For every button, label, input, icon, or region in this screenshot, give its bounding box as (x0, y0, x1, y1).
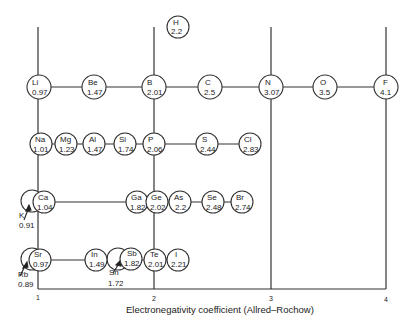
element-labels: H 2.2 Li 0.97 Be 1.47 B 2.01 C 2.5 N 3.0… (18, 18, 392, 289)
element-s-symbol: S (202, 135, 207, 144)
element-in-value: 1.49 (89, 260, 105, 269)
element-be-symbol: Be (88, 78, 98, 87)
element-sb-value: 1.82 (124, 259, 140, 268)
element-ca-value: 1.04 (37, 203, 53, 212)
element-c-value: 2.5 (204, 88, 216, 97)
x-tick-1: 1 (36, 294, 40, 301)
element-p-symbol: P (148, 135, 153, 144)
element-o-symbol: O (320, 78, 326, 87)
element-te-symbol: Te (150, 250, 159, 259)
x-tick-4: 4 (384, 296, 388, 303)
x-axis-title: Electronegativity coefficient (Allred–Ro… (126, 304, 314, 315)
element-na-value: 1.01 (33, 145, 49, 154)
element-circles (27, 16, 398, 271)
element-na-symbol: Na (35, 135, 46, 144)
element-ca-symbol: Ca (38, 193, 49, 202)
element-h-symbol: H (173, 18, 179, 27)
element-i-symbol: I (175, 250, 177, 259)
element-sn-value: 1.72 (108, 279, 124, 288)
element-sr-symbol: Sr (34, 250, 42, 259)
element-li-symbol: Li (32, 78, 38, 87)
element-cl-symbol: Cl (244, 135, 252, 144)
x-axis: 1 2 3 4 Electronegativity coefficient (A… (36, 294, 388, 315)
element-te-value: 2.01 (148, 260, 164, 269)
element-sr-value: 0.97 (33, 260, 49, 269)
element-c-symbol: C (205, 78, 211, 87)
element-k-symbol: K (19, 211, 25, 220)
element-as-symbol: As (174, 193, 183, 202)
element-si-value: 1.74 (118, 145, 134, 154)
element-ga-symbol: Ga (131, 193, 142, 202)
element-n-value: 3.07 (264, 88, 280, 97)
element-h-value: 2.2 (171, 27, 183, 36)
element-si-symbol: Si (119, 135, 126, 144)
x-tick-2: 2 (152, 295, 156, 302)
element-as-value: 2.2 (175, 203, 187, 212)
element-rb-value: 0.89 (18, 280, 34, 289)
element-ga-value: 1.82 (130, 203, 146, 212)
element-b-symbol: B (147, 78, 152, 87)
element-ge-symbol: Ge (151, 193, 162, 202)
element-rb-symbol: Rb (18, 270, 29, 279)
element-se-symbol: Se (207, 193, 217, 202)
element-in-symbol: In (91, 250, 98, 259)
element-mg-symbol: Mg (60, 135, 71, 144)
element-mg-value: 1.23 (59, 145, 75, 154)
element-f-value: 4.1 (380, 88, 392, 97)
element-ge-value: 2.02 (150, 203, 166, 212)
element-f-symbol: F (383, 78, 388, 87)
element-k-value: 0.91 (19, 221, 35, 230)
element-i-value: 2.21 (171, 260, 187, 269)
x-tick-3: 3 (269, 295, 273, 302)
element-s-value: 2.44 (200, 145, 216, 154)
element-al-symbol: Al (89, 135, 96, 144)
element-br-symbol: Br (236, 193, 244, 202)
element-li-value: 0.97 (32, 88, 48, 97)
element-br-value: 2.74 (235, 203, 251, 212)
element-cl-value: 2.83 (243, 145, 259, 154)
element-be-value: 1.47 (87, 88, 103, 97)
element-b-value: 2.01 (147, 88, 163, 97)
element-n-symbol: N (265, 78, 271, 87)
electronegativity-diagram: H 2.2 Li 0.97 Be 1.47 B 2.01 C 2.5 N 3.0… (0, 0, 416, 327)
element-al-value: 1.47 (87, 145, 103, 154)
element-sb-symbol: Sb (127, 249, 137, 258)
element-se-value: 2.48 (206, 203, 222, 212)
element-sn-symbol: Sn (109, 268, 119, 277)
element-p-value: 2.06 (147, 145, 163, 154)
element-o-value: 3.5 (319, 88, 331, 97)
